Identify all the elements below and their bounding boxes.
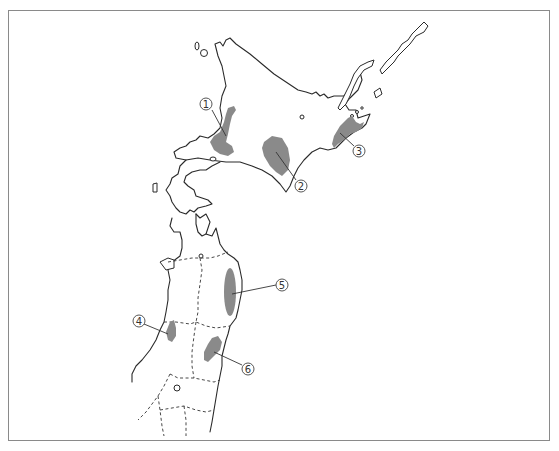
- map-of-hokkaido-and-tohoku: 1 2 3 4 5 6: [0, 0, 559, 451]
- lake: [300, 115, 304, 119]
- label-2: 2: [295, 180, 307, 192]
- label-1: 1: [200, 98, 212, 110]
- region-2: [262, 136, 290, 176]
- region-6: [204, 336, 222, 362]
- prefecture-border: [168, 252, 228, 262]
- leader-line-4: [144, 324, 168, 334]
- tohoku-coastline: [132, 218, 182, 382]
- habomai-islet: [356, 111, 359, 114]
- svg-text:2: 2: [298, 181, 304, 192]
- region-3: [332, 116, 364, 148]
- okushiri-island: [153, 183, 157, 192]
- rishiri-island: [201, 50, 208, 57]
- prefecture-border: [158, 396, 164, 436]
- label-5: 5: [276, 279, 288, 291]
- svg-text:1: 1: [203, 99, 209, 110]
- oga-peninsula: [160, 258, 174, 270]
- label-3: 3: [353, 145, 365, 157]
- oshima-peninsula-coastline: [166, 160, 220, 214]
- region-4: [166, 320, 176, 342]
- prefecture-border: [196, 258, 202, 322]
- etorofu-island: [380, 22, 428, 74]
- prefecture-border: [138, 374, 170, 420]
- shikotan-island: [374, 88, 382, 98]
- svg-text:6: 6: [245, 364, 251, 375]
- habomai-islet: [361, 107, 363, 109]
- prefecture-border: [170, 374, 220, 382]
- region-5: [224, 268, 236, 316]
- leader-line-6: [214, 352, 242, 365]
- rebun-island: [195, 42, 199, 50]
- hokkaido-coastline: [174, 38, 370, 192]
- tohoku-east-coastline: [196, 214, 242, 432]
- label-4: 4: [133, 315, 145, 327]
- prefecture-border: [160, 406, 214, 412]
- kunashiri-island: [338, 60, 374, 110]
- svg-text:3: 3: [356, 146, 362, 157]
- islet: [210, 157, 216, 161]
- svg-text:4: 4: [136, 316, 142, 327]
- lake-inawashiro: [174, 385, 180, 391]
- svg-text:5: 5: [279, 280, 285, 291]
- leader-line-5: [232, 285, 276, 294]
- prefecture-border: [184, 406, 186, 436]
- label-6: 6: [242, 363, 254, 375]
- prefecture-border: [192, 322, 196, 378]
- lake-towada: [199, 254, 203, 258]
